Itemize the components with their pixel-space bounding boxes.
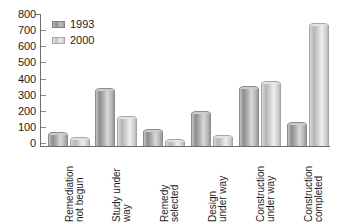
y-tick-label: 300 xyxy=(2,90,36,101)
bar-chart-figure: 800 700 600 500 400 300 200 100 0 xyxy=(0,0,339,224)
y-tick-label: 800 xyxy=(2,9,36,20)
x-label-text: Remedy selected xyxy=(160,148,181,222)
bar-body xyxy=(143,132,163,147)
y-axis-tick xyxy=(41,62,46,63)
x-label-remedy-selected: Remedy selected xyxy=(149,148,163,222)
bar-body xyxy=(191,114,211,146)
bar-body xyxy=(95,91,115,146)
bar-1993-study-under-way xyxy=(95,88,115,146)
y-tick-label: 600 xyxy=(2,41,36,52)
x-label-design-under-way: Design under way xyxy=(197,148,211,222)
x-axis-line xyxy=(40,146,330,147)
bar-1993-construction-completed xyxy=(287,122,307,146)
bar-2000-remedy-selected xyxy=(165,139,185,146)
bar-2000-construction-completed xyxy=(309,23,329,146)
y-axis-tick xyxy=(41,143,46,144)
bar-2000-construction-under-way xyxy=(261,81,281,146)
y-tick-label: 200 xyxy=(2,106,36,117)
y-axis-tick xyxy=(41,95,46,96)
bar-body xyxy=(165,142,185,146)
bar-body xyxy=(213,138,233,147)
y-tick-label: 500 xyxy=(2,57,36,68)
chart-legend: 1993 2000 xyxy=(52,18,94,50)
x-label-text: Construction under way xyxy=(256,148,277,222)
bar-2000-remediation-not-begun xyxy=(70,137,90,146)
y-axis-tick xyxy=(41,30,46,31)
y-tick-label: 700 xyxy=(2,25,36,36)
x-label-text: Remediation not begun xyxy=(65,148,86,222)
x-label-construction-completed: Construction completed xyxy=(293,148,307,222)
y-axis-tick xyxy=(41,127,46,128)
bar-body xyxy=(70,140,90,146)
bar-body xyxy=(117,119,137,146)
y-tick-label: 400 xyxy=(2,74,36,85)
y-axis-tick xyxy=(41,111,46,112)
bar-body xyxy=(239,89,259,147)
x-label-text: Design under way xyxy=(208,148,229,222)
y-axis-tick xyxy=(36,14,41,15)
x-label-text: Construction completed xyxy=(304,148,325,222)
bar-body xyxy=(48,135,68,146)
y-tick-label: 0 xyxy=(2,138,36,149)
y-axis-tick xyxy=(41,46,46,47)
legend-item-1993: 1993 xyxy=(52,18,94,31)
bar-1993-remedy-selected xyxy=(143,129,163,147)
x-axis-category-labels: Remediation not begun Study under way Re… xyxy=(40,148,330,224)
bar-1993-construction-under-way xyxy=(239,86,259,147)
legend-swatch-icon xyxy=(52,37,65,44)
y-tick-label: 100 xyxy=(2,122,36,133)
bar-2000-design-under-way xyxy=(213,135,233,147)
x-label-study-under-way: Study under way xyxy=(101,148,115,222)
bar-body xyxy=(261,84,281,146)
legend-label: 1993 xyxy=(70,19,94,30)
bar-1993-design-under-way xyxy=(191,111,211,146)
legend-swatch-icon xyxy=(52,21,65,28)
legend-item-2000: 2000 xyxy=(52,34,94,47)
bar-body xyxy=(309,26,329,146)
bar-1993-remediation-not-begun xyxy=(48,132,68,146)
x-label-remediation-not-begun: Remediation not begun xyxy=(54,148,68,222)
x-label-text: Study under way xyxy=(112,148,133,222)
bar-body xyxy=(287,125,307,146)
y-axis-tick xyxy=(41,79,46,80)
y-axis-tick-labels: 800 700 600 500 400 300 200 100 0 xyxy=(0,14,36,146)
legend-label: 2000 xyxy=(70,35,94,46)
bar-2000-study-under-way xyxy=(117,116,137,146)
x-label-construction-under-way: Construction under way xyxy=(245,148,259,222)
